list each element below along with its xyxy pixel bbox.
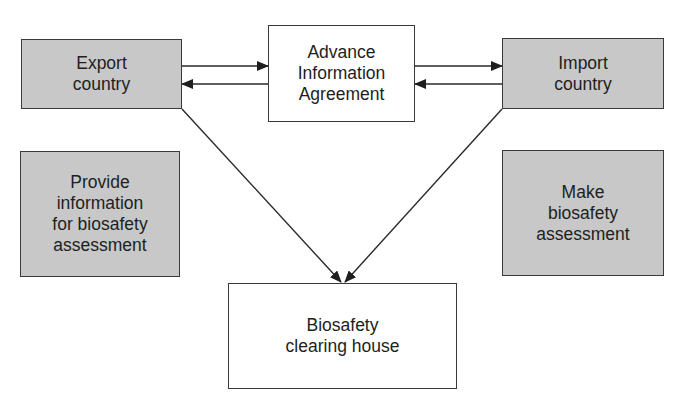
node-export-country: Export country — [21, 39, 182, 109]
node-make-biosafety-assessment: Make biosafety assessment — [502, 150, 664, 276]
node-provide-information: Provide information for biosafety assess… — [20, 151, 180, 277]
arrow-export-to-clearing-house — [182, 109, 341, 282]
arrow-import-to-clearing-house — [345, 109, 502, 282]
node-advance-information-agreement: Advance Information Agreement — [268, 25, 415, 122]
node-biosafety-clearing-house: Biosafety clearing house — [228, 283, 457, 389]
node-import-country: Import country — [502, 38, 664, 109]
